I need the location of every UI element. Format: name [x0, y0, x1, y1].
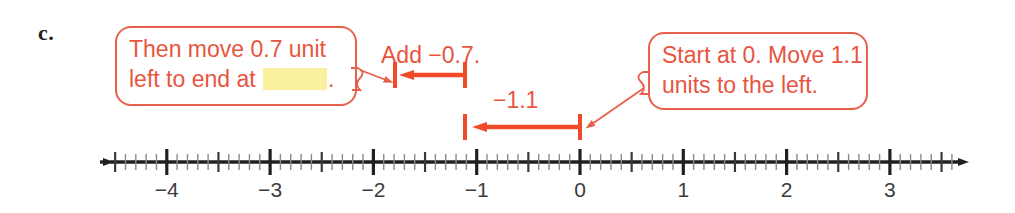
- axis-tick-label: −1: [465, 178, 489, 202]
- worksheet-figure: c. Then move 0.7 unit left to end at . S…: [0, 0, 1015, 213]
- axis-tick-label: 3: [884, 178, 896, 202]
- axis-tick-label: 1: [677, 178, 689, 202]
- axis-tick-label: −2: [361, 178, 385, 202]
- number-line-figure: [0, 0, 1015, 213]
- axis-tick-label: −3: [258, 178, 282, 202]
- callout-left-pointer: [360, 70, 386, 80]
- axis-tick-label: 0: [574, 178, 586, 202]
- callout-right-pointer: [592, 88, 644, 124]
- axis-tick-label: 2: [781, 178, 793, 202]
- callout-left-tail-bracket: [351, 68, 363, 90]
- axis-tick-label: −4: [155, 178, 179, 202]
- jump-arrow-lower: [465, 114, 580, 140]
- jump-arrow-upper: [395, 62, 465, 88]
